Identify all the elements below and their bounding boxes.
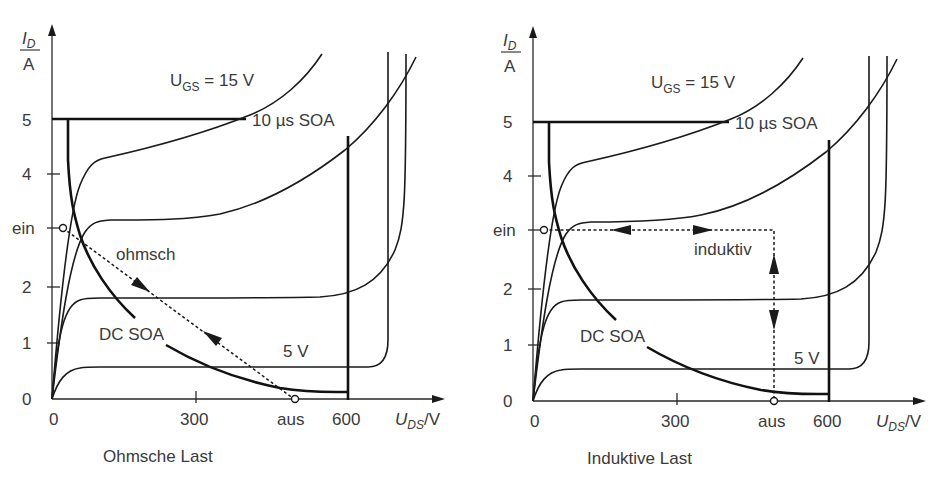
dc-soa-curve-upper (68, 119, 135, 318)
left-caption: Ohmsche Last (103, 447, 213, 466)
svg-text:A: A (504, 57, 516, 76)
svg-text:10 µs SOA: 10 µs SOA (735, 114, 818, 133)
aus-point (292, 396, 299, 403)
svg-text:1: 1 (503, 336, 512, 355)
ytick-5: 5 (22, 111, 31, 130)
ugs-5v-label: 5 V (283, 342, 309, 361)
xtick-aus: aus (277, 410, 304, 429)
y-label-numerator: ID (22, 29, 36, 51)
right-caption: Induktive Last (587, 449, 692, 468)
ugs-15v-curve (52, 54, 322, 399)
svg-text:ID: ID (503, 31, 517, 53)
soa-10us-label: 10 µs SOA (252, 111, 335, 130)
svg-text:5 V: 5 V (794, 349, 820, 368)
ein-label: ein (12, 219, 35, 238)
svg-text:600: 600 (813, 412, 841, 431)
ugs-curve-3 (52, 57, 416, 399)
arrow-up-icon (769, 254, 779, 274)
induktiv-label: induktiv (694, 240, 752, 259)
ein-point (60, 225, 67, 232)
x-axis-arrow-icon (913, 397, 926, 405)
xtick-300: 300 (180, 410, 208, 429)
svg-text:UDS/V: UDS/V (876, 412, 922, 434)
ohmsch-label: ohmsch (116, 245, 176, 264)
ytick-2: 2 (22, 278, 31, 297)
arrow-down-icon (131, 277, 150, 292)
ohmsch-load-line (63, 228, 294, 399)
ugs-label: UGS = 15 V (170, 71, 255, 94)
y-axis-arrow-icon (529, 26, 537, 38)
arrow-left-icon (611, 225, 631, 235)
xtick-0: 0 (49, 410, 58, 429)
xtick-600: 600 (332, 410, 360, 429)
ytick-0: 0 (22, 390, 31, 409)
ugs-curve-2 (52, 54, 406, 399)
svg-text:4: 4 (503, 167, 512, 186)
x-label: UDS/V (395, 410, 441, 432)
dc-soa-curve-lower (166, 345, 348, 392)
svg-text:300: 300 (661, 412, 689, 431)
svg-text:0: 0 (530, 412, 539, 431)
arrow-right-icon (693, 225, 713, 235)
svg-text:0: 0 (503, 392, 512, 411)
dc-soa-label: DC SOA (99, 325, 165, 344)
svg-text:UGS = 15 V: UGS = 15 V (651, 73, 736, 96)
left-plot: ID A 0 1 2 4 5 ein 0 300 aus 600 UDS/V O… (12, 24, 445, 466)
x-axis-arrow-icon (432, 395, 445, 403)
svg-text:5: 5 (503, 113, 512, 132)
figure-canvas: ID A 0 1 2 4 5 ein 0 300 aus 600 UDS/V O… (0, 0, 950, 488)
svg-text:ein: ein (493, 221, 516, 240)
right-plot: ID A 0 1 2 4 5 ein 0 300 aus 600 UDS/V I… (493, 26, 926, 468)
svg-text:2: 2 (503, 280, 512, 299)
arrow-down-icon (769, 310, 779, 330)
ugs-5v-curve (52, 52, 388, 399)
svg-text:aus: aus (758, 412, 785, 431)
y-axis-arrow-icon (48, 24, 56, 36)
svg-text:DC SOA: DC SOA (580, 327, 646, 346)
ytick-1: 1 (22, 334, 31, 353)
ytick-4: 4 (22, 165, 31, 184)
y-label-unit: A (23, 55, 35, 74)
